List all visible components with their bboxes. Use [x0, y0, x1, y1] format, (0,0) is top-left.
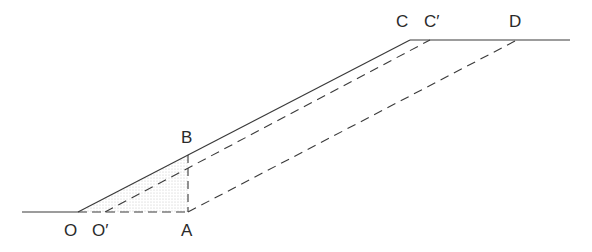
label-B: B	[181, 129, 192, 146]
slope-diagram: O O′ A B C C′ D	[0, 0, 592, 252]
label-D: D	[509, 13, 521, 30]
label-O: O	[64, 222, 77, 239]
label-C-prime: C′	[424, 13, 439, 30]
dashed-slope-AD	[188, 40, 517, 212]
diagram-canvas	[0, 0, 592, 252]
dashed-slope-O'C'	[105, 40, 430, 212]
slope-line-OC	[78, 40, 410, 212]
label-C: C	[396, 13, 408, 30]
label-O-prime: O′	[92, 222, 108, 239]
label-A: A	[181, 222, 192, 239]
